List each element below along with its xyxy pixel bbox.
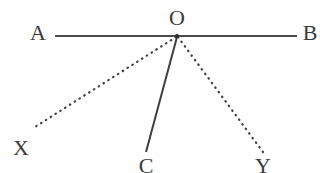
ray-segment-oc [146, 37, 177, 152]
point-label-b: B [303, 22, 318, 44]
point-label-a: A [30, 22, 46, 44]
point-label-c: C [139, 155, 154, 173]
figure-canvas [0, 0, 332, 173]
geometry-figure: A B O X C Y [0, 0, 332, 173]
ray-segment-ox [35, 37, 176, 127]
point-label-o: O [169, 7, 185, 29]
vertex-dot-o [175, 34, 179, 38]
ray-segment-oy [178, 37, 263, 152]
point-label-y: Y [255, 155, 271, 173]
point-label-x: X [13, 137, 29, 159]
